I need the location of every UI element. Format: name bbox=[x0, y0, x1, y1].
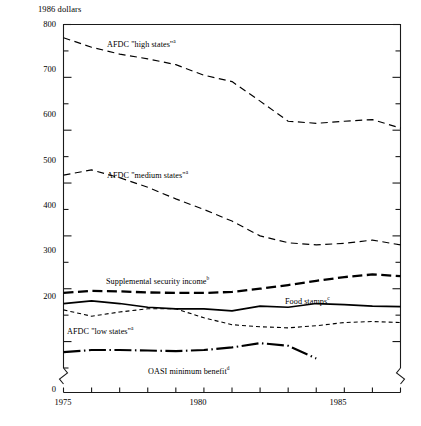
axes-layer bbox=[60, 25, 405, 393]
plot-area bbox=[0, 0, 421, 426]
series-layer bbox=[64, 38, 401, 359]
series-line-supplemental-security-income bbox=[64, 274, 401, 293]
series-line-food-stamps bbox=[64, 301, 401, 311]
series-line-oasi-minimum-benefit bbox=[64, 343, 317, 358]
series-line-afdc-high-states bbox=[64, 38, 401, 128]
series-line-afdc-medium-states bbox=[64, 170, 401, 245]
chart-figure: 1986 dollars 800 700 600 500 400 300 200… bbox=[0, 0, 421, 426]
